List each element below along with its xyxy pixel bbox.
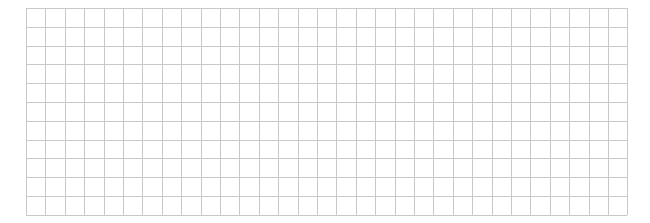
grid-lines [26, 8, 629, 216]
empty-grid [26, 8, 629, 216]
